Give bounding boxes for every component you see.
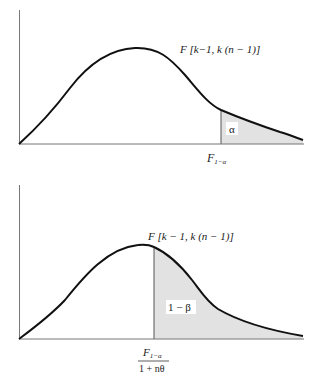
alpha-label: α xyxy=(229,123,235,135)
top-panel: F [k−1, k (n − 1)] α F1−α xyxy=(19,10,304,166)
critical-value-label: F1−α xyxy=(206,151,227,166)
power-label: 1 − β xyxy=(168,301,191,313)
distribution-label: F [k−1, k (n − 1)] xyxy=(179,43,260,56)
bottom-panel: F [k − 1, k (n − 1)] 1 − β F1−α 1 + nθ xyxy=(19,185,304,374)
power-shaded-region xyxy=(154,247,303,339)
critical-value-numerator: F1−α xyxy=(142,346,162,360)
f-distribution-diagram: F [k−1, k (n − 1)] α F1−α F [k − 1, k (n… xyxy=(0,0,316,375)
critical-value-denominator: 1 + nθ xyxy=(139,363,165,374)
distribution-label: F [k − 1, k (n − 1)] xyxy=(147,230,234,243)
